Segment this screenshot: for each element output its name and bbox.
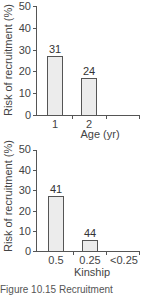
y-axis-title: Risk of recruitment (%) [2, 140, 14, 252]
y-tick-label: 20 [15, 205, 31, 217]
x-tick [106, 251, 107, 255]
y-tick [33, 211, 37, 212]
y-axis [36, 150, 37, 252]
bar-kinship-0.25 [82, 240, 98, 251]
x-axis-title: Kinship [52, 266, 132, 278]
y-tick [33, 190, 37, 191]
x-tick-label: <0.25 [109, 254, 139, 266]
x-axis [33, 251, 140, 252]
kinship-chart: Risk of recruitment (%) 50 40 30 20 10 0… [0, 0, 148, 284]
x-tick [139, 251, 140, 255]
y-tick-label: 0 [15, 245, 31, 257]
y-tick-label: 30 [15, 184, 31, 196]
x-tick-label: 0.25 [75, 254, 105, 266]
y-tick-label: 10 [15, 225, 31, 237]
y-tick-label: 50 [15, 143, 31, 155]
y-tick [33, 231, 37, 232]
figure-caption: Figure 10.15 Recruitment [0, 284, 148, 295]
x-tick-label: 0.5 [41, 254, 71, 266]
bar-label: 44 [75, 227, 105, 239]
y-tick-label: 40 [15, 164, 31, 176]
y-tick [33, 150, 37, 151]
bar-kinship-0.5 [48, 196, 64, 251]
bar-label: 41 [41, 183, 71, 195]
x-tick [73, 251, 74, 255]
y-tick [33, 170, 37, 171]
